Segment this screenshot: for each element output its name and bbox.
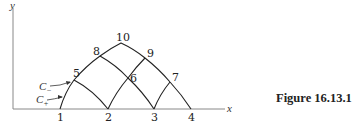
node-label-4: 4 [188,111,195,124]
characteristics-diagram: y x C− C+ 1 2 3 4 5 6 7 8 9 10 [0,0,352,128]
node-label-9: 9 [147,47,154,60]
c-minus-curve-5-2 [74,80,108,109]
c-minus-arrowhead [66,81,71,85]
node-label-10: 10 [116,31,130,44]
c-plus-curve-2-6-9 [108,58,145,109]
c-plus-arrowhead [58,95,63,99]
node-label-8: 8 [93,45,100,58]
c-plus-curve-3-7 [154,82,170,109]
node-label-3: 3 [151,111,158,124]
c-plus-label: C+ [36,93,49,108]
c-minus-curve-8-6-3 [100,56,154,109]
y-axis-label: y [9,0,15,11]
node-label-6: 6 [130,72,137,85]
figure-caption: Figure 16.13.1 [276,91,352,106]
node-label-2: 2 [105,111,112,124]
node-label-7: 7 [172,71,179,84]
node-label-1: 1 [57,111,64,124]
x-axis-label: x [226,102,232,114]
node-label-5: 5 [73,67,80,80]
